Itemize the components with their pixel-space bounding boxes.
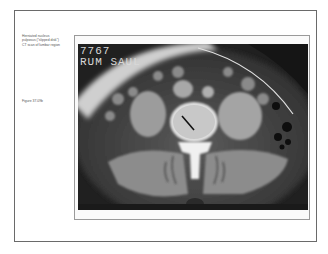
figure-caption: Herniated nucleus pulposus ("slipped dis… — [22, 34, 74, 47]
figure-label: Figure 37.09b — [22, 99, 43, 103]
caption-line-3: CT scan of lumbar region — [22, 43, 74, 47]
ct-scan-image: 7767 RUM SAUL — [78, 44, 308, 210]
ct-overlay-name: RUM SAUL — [80, 57, 141, 68]
